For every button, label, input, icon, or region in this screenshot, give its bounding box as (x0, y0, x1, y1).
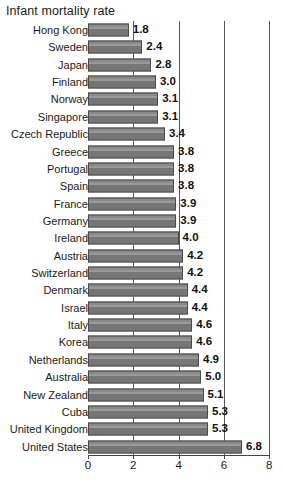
category-label: United Kingdom (10, 424, 88, 435)
value-label: 3.0 (160, 76, 176, 88)
value-label: 3.8 (178, 163, 194, 175)
bar-row: United Kingdom5.3 (0, 420, 283, 438)
value-label: 4.6 (196, 337, 212, 349)
bar (88, 76, 156, 89)
bar-row: Japan2.8 (0, 56, 283, 74)
bar-row: Austria4.2 (0, 247, 283, 265)
value-label: 6.8 (246, 441, 262, 453)
bar-row: Sweden2.4 (0, 38, 283, 56)
category-label: New Zealand (23, 389, 88, 400)
value-label: 5.0 (205, 371, 221, 383)
category-label: Portugal (47, 163, 88, 174)
bar-row: United States6.8 (0, 438, 283, 456)
category-label: Korea (59, 337, 88, 348)
tick-label-8: 8 (266, 460, 272, 472)
bar-row: New Zealand5.1 (0, 386, 283, 404)
bar-row: Germany3.9 (0, 212, 283, 230)
value-label: 4.4 (192, 302, 208, 314)
value-label: 4.2 (187, 267, 203, 279)
value-label: 3.1 (162, 94, 178, 106)
bar-row: Switzerland4.2 (0, 264, 283, 282)
bar (88, 128, 165, 141)
category-label: Cuba (62, 406, 88, 417)
bar (88, 145, 174, 158)
bar (88, 388, 204, 401)
tick-label-2: 2 (130, 460, 136, 472)
bar-rows: Hong Kong1.8Sweden2.4Japan2.8Finland3.0N… (0, 21, 283, 455)
value-label: 4.4 (192, 285, 208, 297)
value-label: 4.0 (183, 233, 199, 245)
bar (88, 58, 151, 71)
bar (88, 319, 192, 332)
category-label: Switzerland (31, 268, 88, 279)
category-label: Netherlands (29, 354, 88, 365)
category-label: Hong Kong (33, 25, 88, 36)
bar-row: France3.9 (0, 195, 283, 213)
value-label: 4.6 (196, 319, 212, 331)
value-label: 5.3 (212, 424, 228, 436)
bar (88, 301, 188, 314)
value-label: 4.9 (203, 354, 219, 366)
bar-row: Norway3.1 (0, 90, 283, 108)
bar-row: Israel4.4 (0, 299, 283, 317)
bar (88, 232, 179, 245)
bar (88, 197, 176, 210)
category-label: Israel (61, 302, 88, 313)
value-label: 2.8 (155, 59, 171, 71)
bar-row: Netherlands4.9 (0, 351, 283, 369)
bar-row: Ireland4.0 (0, 229, 283, 247)
category-label: United States (22, 441, 88, 452)
tick-label-4: 4 (175, 460, 181, 472)
bar-row: Singapore3.1 (0, 108, 283, 126)
chart-title: Infant mortality rate (6, 4, 115, 18)
category-label: Japan (58, 59, 88, 70)
value-label: 3.4 (169, 128, 185, 140)
bar (88, 162, 174, 175)
bar (88, 110, 158, 123)
bar-row: Czech Republic3.4 (0, 125, 283, 143)
value-label: 3.9 (180, 198, 196, 210)
category-label: Ireland (54, 233, 88, 244)
bar-row: Greece3.8 (0, 143, 283, 161)
category-label: Singapore (38, 111, 88, 122)
bar (88, 423, 208, 436)
value-label: 5.1 (208, 389, 224, 401)
bar-row: Hong Kong1.8 (0, 21, 283, 39)
infant-mortality-chart: Infant mortality rate Hong Kong1.8Sweden… (0, 0, 283, 488)
category-label: Spain (60, 181, 88, 192)
tick-label-6: 6 (221, 460, 227, 472)
category-label: Italy (68, 320, 88, 331)
category-label: Germany (43, 215, 88, 226)
bar (88, 180, 174, 193)
bar (88, 440, 242, 453)
category-label: Czech Republic (11, 129, 88, 140)
value-label: 1.8 (133, 24, 149, 36)
category-label: Australia (45, 372, 88, 383)
category-label: Austria (54, 250, 88, 261)
category-label: Norway (51, 94, 88, 105)
bar (88, 405, 208, 418)
bar-row: Portugal3.8 (0, 160, 283, 178)
category-label: France (54, 198, 88, 209)
category-label: Finland (52, 77, 88, 88)
value-label: 3.1 (162, 111, 178, 123)
category-label: Sweden (48, 42, 88, 53)
bar-row: Australia5.0 (0, 368, 283, 386)
bar (88, 284, 188, 297)
bar-row: Finland3.0 (0, 73, 283, 91)
value-label: 5.3 (212, 406, 228, 418)
bar (88, 24, 129, 37)
bar (88, 336, 192, 349)
plot-area: Hong Kong1.8Sweden2.4Japan2.8Finland3.0N… (0, 21, 283, 455)
bar-row: Cuba5.3 (0, 403, 283, 421)
bar (88, 353, 199, 366)
tick-label-0: 0 (85, 460, 91, 472)
bar-row: Denmark4.4 (0, 281, 283, 299)
value-label: 2.4 (146, 42, 162, 54)
bar (88, 249, 183, 262)
value-label: 3.8 (178, 146, 194, 158)
category-label: Denmark (43, 285, 88, 296)
bar (88, 41, 142, 54)
bar (88, 214, 176, 227)
value-label: 4.2 (187, 250, 203, 262)
